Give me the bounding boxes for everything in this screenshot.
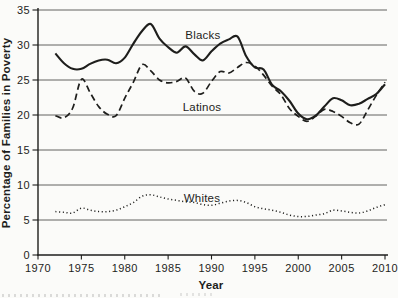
series-label-blacks: Blacks <box>185 29 220 41</box>
y-tick-label-10: 10 <box>17 179 30 191</box>
series-layer <box>55 24 385 217</box>
x-tick-label-1980: 1980 <box>112 262 138 274</box>
x-tick-label-2005: 2005 <box>329 262 355 274</box>
poverty-line-chart-figure: 0510152025303519701975198019851990199520… <box>0 0 398 298</box>
series-line-latinos <box>55 62 385 124</box>
x-axis-title: Year <box>198 279 223 291</box>
y-tick-label-30: 30 <box>17 39 30 51</box>
x-tick-label-1975: 1975 <box>68 262 94 274</box>
scan-artifact <box>180 293 214 296</box>
y-tick-label-25: 25 <box>17 74 30 86</box>
x-tick-label-1995: 1995 <box>242 262 268 274</box>
series-labels-layer: BlacksLatinosWhites <box>183 29 222 204</box>
gridlines-layer <box>38 10 387 220</box>
axes-layer: 0510152025303519701975198019851990199520… <box>17 4 398 274</box>
y-axis-title: Percentage of Families in Poverty <box>0 37 12 228</box>
x-tick-label-2000: 2000 <box>285 262 311 274</box>
y-tick-label-5: 5 <box>23 214 30 226</box>
x-tick-label-2010: 2010 <box>372 262 398 274</box>
series-line-whites <box>55 195 385 217</box>
x-tick-label-1985: 1985 <box>155 262 181 274</box>
scan-artifact <box>2 294 162 297</box>
y-tick-label-35: 35 <box>17 4 30 16</box>
y-tick-label-0: 0 <box>23 249 30 261</box>
chart-canvas: 0510152025303519701975198019851990199520… <box>0 0 398 298</box>
y-tick-label-15: 15 <box>17 144 30 156</box>
x-tick-label-1970: 1970 <box>25 262 51 274</box>
x-tick-label-1990: 1990 <box>198 262 224 274</box>
y-tick-label-20: 20 <box>17 109 30 121</box>
series-label-latinos: Latinos <box>183 101 222 113</box>
series-label-whites: Whites <box>184 192 220 204</box>
